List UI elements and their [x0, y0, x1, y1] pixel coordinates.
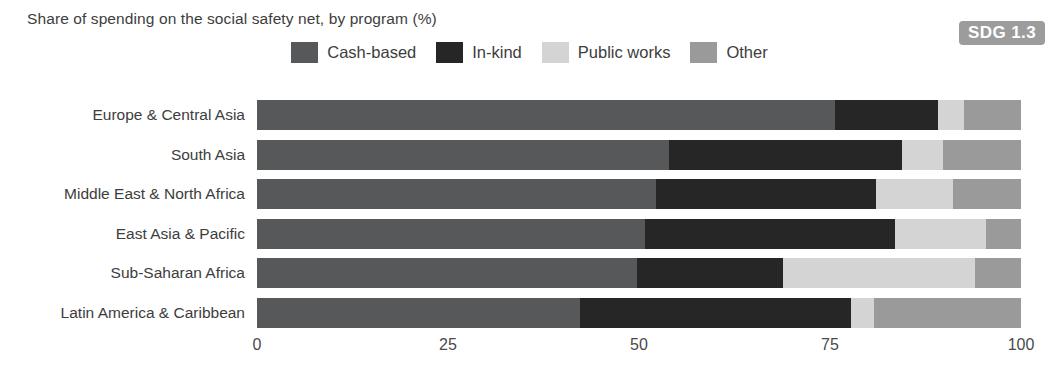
bar-segment-other[interactable]: [986, 219, 1021, 249]
bar-segment-in-kind[interactable]: [669, 140, 902, 170]
bar-segment-other[interactable]: [953, 179, 1021, 209]
bar-segment-public-works[interactable]: [902, 140, 943, 170]
stacked-bar[interactable]: [257, 298, 1021, 328]
bar-segment-cash-based[interactable]: [257, 100, 835, 130]
bar-segment-cash-based[interactable]: [257, 298, 580, 328]
legend-item-cash-based[interactable]: Cash-based: [291, 42, 416, 63]
chart-legend: Cash-basedIn-kindPublic worksOther: [0, 42, 1059, 63]
legend-label: In-kind: [472, 43, 522, 62]
bar-segment-in-kind[interactable]: [835, 100, 938, 130]
bar-segment-public-works[interactable]: [895, 219, 986, 249]
bar-segment-cash-based[interactable]: [257, 179, 656, 209]
stacked-bar[interactable]: [257, 100, 1021, 130]
legend-label: Cash-based: [327, 43, 416, 62]
bar-segment-public-works[interactable]: [851, 298, 873, 328]
plot-area: 0255075100 Europe & Central AsiaSouth As…: [0, 96, 1059, 382]
category-label: Latin America & Caribbean: [0, 298, 245, 328]
category-label: Sub-Saharan Africa: [0, 258, 245, 288]
chart-subtitle: Share of spending on the social safety n…: [27, 10, 437, 28]
bar-segment-other[interactable]: [874, 298, 1021, 328]
x-axis-tick: 25: [439, 336, 457, 354]
category-label: Middle East & North Africa: [0, 179, 245, 209]
bar-segment-in-kind[interactable]: [645, 219, 895, 249]
bar-segment-other[interactable]: [975, 258, 1021, 288]
stacked-bar[interactable]: [257, 179, 1021, 209]
legend-item-in-kind[interactable]: In-kind: [436, 42, 522, 63]
bar-segment-public-works[interactable]: [783, 258, 975, 288]
chart-row: East Asia & Pacific: [0, 219, 1059, 249]
legend-item-public-works[interactable]: Public works: [542, 42, 671, 63]
bar-segment-other[interactable]: [943, 140, 1021, 170]
chart-row: Sub-Saharan Africa: [0, 258, 1059, 288]
chart-row: Latin America & Caribbean: [0, 298, 1059, 328]
category-label: South Asia: [0, 140, 245, 170]
category-label: Europe & Central Asia: [0, 100, 245, 130]
legend-label: Other: [726, 43, 767, 62]
stacked-bar[interactable]: [257, 219, 1021, 249]
x-axis-tick: 100: [1008, 336, 1035, 354]
bar-segment-in-kind[interactable]: [637, 258, 783, 288]
legend-swatch-icon: [690, 42, 717, 63]
bar-segment-cash-based[interactable]: [257, 140, 669, 170]
bar-segment-cash-based[interactable]: [257, 219, 645, 249]
legend-swatch-icon: [436, 42, 463, 63]
x-axis-tick: 0: [253, 336, 262, 354]
bar-segment-in-kind[interactable]: [656, 179, 876, 209]
cut-off-title: Share of spending on the social safety n…: [0, 0, 1059, 7]
x-axis: 0255075100: [257, 332, 1021, 362]
legend-swatch-icon: [542, 42, 569, 63]
chart-row: Middle East & North Africa: [0, 179, 1059, 209]
legend-swatch-icon: [291, 42, 318, 63]
legend-item-other[interactable]: Other: [690, 42, 767, 63]
bar-segment-other[interactable]: [964, 100, 1021, 130]
chart-row: Europe & Central Asia: [0, 100, 1059, 130]
x-axis-tick: 75: [821, 336, 839, 354]
stacked-bar[interactable]: [257, 258, 1021, 288]
legend-label: Public works: [578, 43, 671, 62]
bar-segment-in-kind[interactable]: [580, 298, 851, 328]
bar-segment-public-works[interactable]: [938, 100, 963, 130]
stacked-bar[interactable]: [257, 140, 1021, 170]
category-label: East Asia & Pacific: [0, 219, 245, 249]
chart-page: Share of spending on the social safety n…: [0, 0, 1059, 382]
chart-row: South Asia: [0, 140, 1059, 170]
bar-segment-public-works[interactable]: [876, 179, 953, 209]
bar-segment-cash-based[interactable]: [257, 258, 637, 288]
x-axis-tick: 50: [630, 336, 648, 354]
